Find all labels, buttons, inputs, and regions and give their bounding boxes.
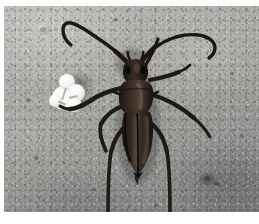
beetle <box>4 6 259 212</box>
foreleg-right-tarsus <box>179 65 190 72</box>
foreleg-left-tarsus <box>60 106 70 109</box>
eye-left <box>125 66 130 74</box>
hindleg-right-tibia <box>167 152 170 212</box>
midleg-left-tibia <box>100 124 106 151</box>
eye-right <box>140 66 145 74</box>
midleg-right-tibia <box>194 118 210 137</box>
hindleg-left-tibia <box>108 152 111 212</box>
head-highlight <box>134 63 140 73</box>
pronotum-spine-left <box>114 92 119 94</box>
elytra-central-highlight <box>134 118 136 166</box>
photo-frame <box>0 0 259 224</box>
photo-margin-left <box>0 0 4 224</box>
pronotum-spine-right <box>153 92 158 94</box>
photo-margin-bottom <box>0 212 259 224</box>
photo-margin-top <box>0 0 259 6</box>
photograph <box>4 6 259 212</box>
foreleg-right <box>150 72 179 80</box>
